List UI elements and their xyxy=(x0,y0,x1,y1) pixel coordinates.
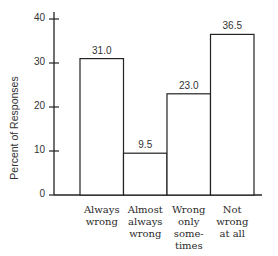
y-axis-label: Percent of Responses xyxy=(8,76,20,179)
bar xyxy=(167,94,211,195)
bar-value-label: 31.0 xyxy=(80,45,124,56)
bar-chart: Percent of Responses 010203040 31.09.523… xyxy=(0,0,278,256)
bar xyxy=(211,34,255,195)
bar-value-label: 9.5 xyxy=(123,139,167,150)
y-tick-label: 0 xyxy=(25,188,45,199)
category-label: Always wrong xyxy=(79,204,125,228)
y-tick-label: 40 xyxy=(25,12,45,23)
bar-value-label: 23.0 xyxy=(167,80,211,91)
category-label: Wrong only some- times xyxy=(166,204,212,252)
y-tick-label: 10 xyxy=(25,144,45,155)
category-label: Almost always wrong xyxy=(122,204,168,240)
y-tick-label: 20 xyxy=(25,100,45,111)
bar xyxy=(124,153,168,195)
bar xyxy=(80,59,124,195)
y-tick-label: 30 xyxy=(25,56,45,67)
category-label: Not wrong at all xyxy=(209,204,255,240)
bar-value-label: 36.5 xyxy=(210,20,254,31)
